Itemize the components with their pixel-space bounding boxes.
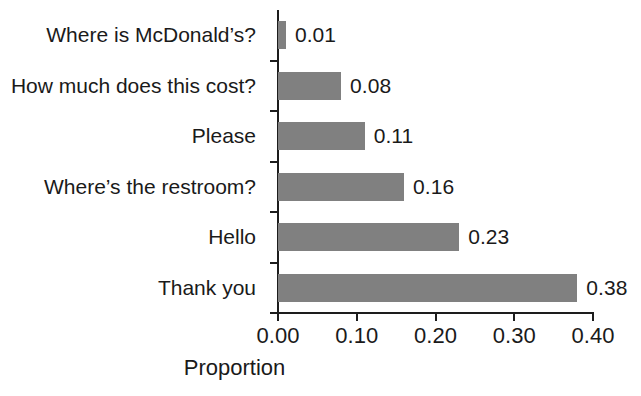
bar-chart: Where is McDonald’s?0.01How much does th…: [0, 0, 641, 396]
plot-area: Where is McDonald’s?0.01How much does th…: [278, 10, 593, 313]
bar-value-label: 0.01: [295, 21, 336, 49]
x-axis-title: Proportion: [0, 355, 641, 381]
category-label: Hello: [208, 223, 256, 251]
bar-row: Hello0.23: [278, 212, 593, 263]
category-label-area: How much does this cost?: [0, 61, 278, 112]
bar-row: Please0.11: [278, 111, 593, 162]
category-label: How much does this cost?: [11, 72, 256, 100]
category-label-area: Where is McDonald’s?: [0, 10, 278, 61]
x-axis-tick-label: 0.30: [493, 323, 536, 349]
bar: [278, 173, 404, 201]
bar: [278, 122, 365, 150]
x-axis-tick: [513, 314, 515, 321]
bar-value-label: 0.11: [374, 122, 414, 150]
x-axis-title-text: Proportion: [184, 355, 286, 380]
category-label-area: Thank you: [0, 263, 278, 314]
x-axis-tick: [356, 314, 358, 321]
bar: [278, 72, 341, 100]
bar-value-label: 0.16: [413, 173, 454, 201]
bar-row: Where’s the restroom?0.16: [278, 162, 593, 213]
category-label-area: Hello: [0, 212, 278, 263]
bar-value-label: 0.23: [468, 223, 509, 251]
x-axis-tick-label: 0.10: [335, 323, 378, 349]
bar-value-label: 0.08: [350, 72, 391, 100]
x-axis-tick-label: 0.00: [257, 323, 300, 349]
category-label: Please: [192, 122, 256, 150]
bar: [278, 274, 577, 302]
bar: [278, 223, 459, 251]
x-axis-tick: [435, 314, 437, 321]
bar-value-label: 0.38: [586, 274, 627, 302]
x-axis-tick-label: 0.40: [572, 323, 615, 349]
x-axis-tick-label: 0.20: [414, 323, 457, 349]
x-axis-tick: [592, 314, 594, 321]
category-label-area: Where’s the restroom?: [0, 162, 278, 213]
bar-row: How much does this cost?0.08: [278, 61, 593, 112]
category-label: Where is McDonald’s?: [46, 21, 256, 49]
bar-row: Thank you0.38: [278, 263, 593, 314]
bar-row: Where is McDonald’s?0.01: [278, 10, 593, 61]
category-label: Where’s the restroom?: [44, 173, 256, 201]
category-label: Thank you: [158, 274, 256, 302]
category-label-area: Please: [0, 111, 278, 162]
x-axis-tick: [277, 314, 279, 321]
bar: [278, 21, 286, 49]
